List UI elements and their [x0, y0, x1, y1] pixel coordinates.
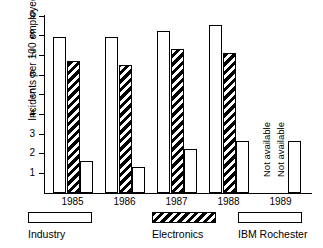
- bar-industry-1985: [53, 37, 66, 192]
- not-available-label: Not available: [276, 122, 286, 177]
- legend-label: Electronics: [152, 228, 216, 240]
- y-tick-8: 8: [39, 35, 45, 36]
- bar-ibm-rochester-1986: [132, 167, 145, 193]
- y-tick-label: 8: [21, 29, 35, 40]
- y-tick-label: 7: [21, 49, 35, 60]
- legend-item-electronics[interactable]: Electronics: [152, 212, 216, 240]
- legend-label: IBM Rochester: [238, 228, 307, 240]
- y-tick-label: 5: [21, 88, 35, 99]
- y-tick-1: 1: [39, 173, 45, 174]
- y-tick-7: 7: [39, 55, 45, 56]
- bar-ibm-rochester-1988: [236, 141, 249, 192]
- y-tick-label: 2: [21, 147, 35, 158]
- bar-industry-1986: [105, 37, 118, 192]
- y-tick-6: 6: [39, 75, 45, 76]
- x-tick-label-1986: 1986: [105, 196, 145, 207]
- y-tick-9: 9: [39, 16, 45, 17]
- legend-item-ibm-rochester[interactable]: IBM Rochester: [238, 212, 307, 240]
- y-tick-3: 3: [39, 134, 45, 135]
- bar-ibm-rochester-1987: [184, 149, 197, 192]
- bar-industry-1988: [209, 25, 222, 192]
- legend-label: Industry: [28, 228, 92, 240]
- bar-chart: Incidents per 100 employees 987654321 No…: [0, 0, 323, 248]
- y-tick-label: 9: [21, 10, 35, 21]
- bar-electronics-1987: [171, 49, 184, 193]
- not-available-label: Not available: [262, 122, 272, 177]
- bar-electronics-1985: [67, 61, 80, 193]
- legend-swatch-icon: [238, 212, 302, 223]
- y-tick-label: 4: [21, 108, 35, 119]
- y-tick-2: 2: [39, 153, 45, 154]
- y-tick-label: 1: [21, 167, 35, 178]
- bar-ibm-rochester-1989: [288, 141, 301, 192]
- bar-industry-1987: [157, 31, 170, 192]
- bar-electronics-1986: [119, 65, 132, 193]
- legend-swatch-icon: [152, 212, 216, 223]
- x-tick-label-1988: 1988: [209, 196, 249, 207]
- chart-legend: IndustryElectronicsIBM Rochester: [0, 212, 323, 248]
- y-axis-line: [44, 15, 45, 193]
- x-tick-label-1989: 1989: [261, 196, 301, 207]
- bar-electronics-1988: [223, 53, 236, 193]
- x-tick-label-1987: 1987: [157, 196, 197, 207]
- legend-item-industry[interactable]: Industry: [28, 212, 92, 240]
- bar-ibm-rochester-1985: [80, 161, 93, 192]
- plot-area: 987654321 Not availableNot available 198…: [44, 12, 316, 194]
- x-tick-label-1985: 1985: [53, 196, 93, 207]
- x-axis-line: [44, 193, 312, 194]
- y-tick-5: 5: [39, 94, 45, 95]
- y-tick-label: 3: [21, 128, 35, 139]
- legend-swatch-icon: [28, 212, 92, 223]
- y-tick-4: 4: [39, 114, 45, 115]
- y-tick-label: 6: [21, 69, 35, 80]
